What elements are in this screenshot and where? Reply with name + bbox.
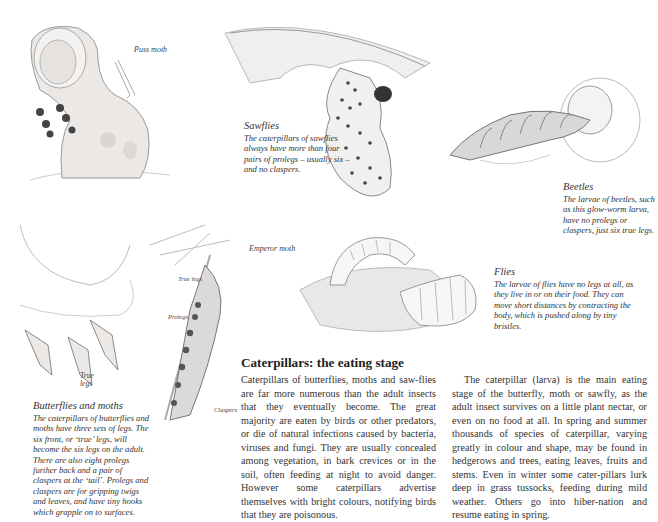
fly-larvae-illustration [290, 230, 490, 345]
article-heading: Caterpillars: the eating stage [241, 355, 404, 371]
emperor-moth-label: Emperor moth [249, 245, 295, 253]
sawfly-illustration [220, 8, 440, 218]
glow-worm-illustration [430, 60, 658, 170]
fly-larvae-drawing [290, 230, 490, 345]
glow-worm-drawing [430, 60, 658, 170]
true-legs-label-left: True legs [80, 372, 100, 388]
sawfly-drawing [220, 8, 440, 218]
prolegs-label: Prolegs [168, 313, 188, 321]
butterflies-and-moths-caption: The caterpillars of butterflies and moth… [33, 413, 151, 517]
article-column-1: Caterpillars of butterflies, moths and s… [241, 373, 436, 522]
beetles-title: Beetles [563, 181, 593, 193]
beetles-caption: The larvae of beetles, such as this glow… [563, 194, 655, 236]
sawflies-caption: The caterpillars of sawflies always have… [244, 133, 356, 175]
puss-moth-label: Puss moth [134, 46, 167, 54]
claspers-label: Claspers [214, 406, 237, 414]
article-column-2: The caterpillar (larva) is the main eati… [452, 373, 647, 522]
puss-moth-drawing [0, 0, 200, 190]
flies-title: Flies [494, 266, 515, 278]
puss-moth-illustration [0, 0, 200, 190]
butterflies-and-moths-title: Butterflies and moths [33, 400, 123, 412]
sawflies-title: Sawflies [244, 120, 279, 132]
true-legs-label-stem: True legs [178, 275, 202, 283]
flies-caption: The larvae of flies have no legs at all,… [494, 279, 634, 331]
